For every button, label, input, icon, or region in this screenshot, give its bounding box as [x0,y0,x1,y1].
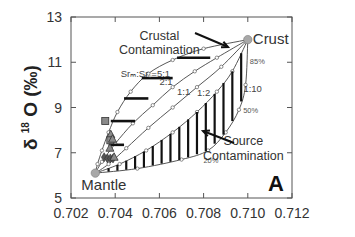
y-axis-label: δ 18 O (‰) [12,65,41,150]
mixing-node [215,90,218,93]
sample-square-marker [102,118,109,125]
y-tick-label: 9 [54,100,62,116]
panel-label: A [268,171,284,196]
percent-label: 85% [250,57,265,66]
x-tick-label: 0.706 [142,205,177,221]
mixing-node [151,104,154,107]
mixing-node [96,162,99,165]
mixing-node [100,149,103,152]
annotation-label: Contamination [203,149,284,163]
x-tick-label: 0.708 [186,205,221,221]
mixing-node [171,58,174,61]
mixing-node [147,126,150,129]
ratio-label: 1:10 [243,83,262,94]
mixing-node [171,106,174,109]
crust-label: Crust [253,30,290,47]
mixing-node [220,65,223,68]
ratio-label: 2:1 [159,76,172,87]
crust-endmember-marker [244,35,252,43]
y-tick-label: 5 [54,190,62,206]
y-tick-label: 11 [47,54,62,70]
y-tick-label: 13 [46,9,62,25]
mixing-node [215,56,218,59]
mantle-label: Mantle [81,176,126,193]
mixing-node [125,147,128,150]
x-tick-label: 0.704 [98,205,133,221]
x-tick-label: 0.702 [53,205,88,221]
delta18O-vs-Sr-isotope-chart: 0.7020.7040.7060.7080.7100.7125791113 Ma… [0,0,355,237]
ratio-label: 1:1 [177,86,190,97]
mixing-node [116,110,119,113]
mixing-node [193,70,196,73]
mixing-node [237,108,240,111]
ratio-label: 1:2 [197,87,210,98]
crustal-contamination-arrow [195,33,228,47]
mixing-node [171,131,174,134]
x-tick-label: 0.712 [274,205,309,221]
mixing-node [129,90,132,93]
percent-label: 50% [243,106,258,115]
sample-markers [101,118,118,163]
mixing-node [202,47,205,50]
annotation-label: Contamination [119,43,200,57]
y-tick-label: 7 [54,145,62,161]
x-tick-label: 0.710 [230,205,265,221]
annotation-label: Crustal [140,29,180,43]
